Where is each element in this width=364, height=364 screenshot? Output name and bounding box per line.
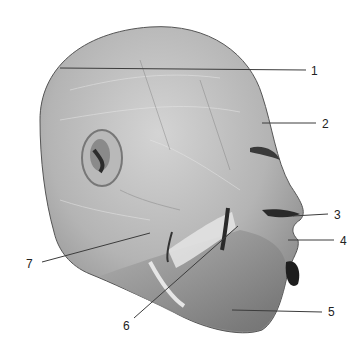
mouth (286, 261, 300, 286)
label-7: 7 (26, 258, 33, 270)
label-2: 2 (322, 118, 329, 130)
label-3: 3 (334, 209, 341, 221)
anatomy-figure: 1 2 3 4 5 6 7 (0, 0, 364, 364)
label-6: 6 (123, 320, 130, 332)
label-1: 1 (311, 65, 318, 77)
label-4: 4 (340, 235, 347, 247)
label-5: 5 (328, 306, 335, 318)
head-specimen-image (0, 0, 364, 364)
